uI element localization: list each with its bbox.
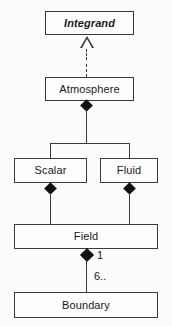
- class-box-fluid[interactable]: Fluid: [100, 158, 158, 183]
- realization-dash-segment-1: [86, 49, 87, 60]
- class-name-fluid: Fluid: [117, 165, 141, 176]
- class-box-integrand[interactable]: Integrand: [45, 11, 134, 35]
- composition-diamond-field: [80, 248, 94, 262]
- multiplicity-label-boundary-end: 6..: [94, 271, 106, 282]
- class-box-boundary[interactable]: Boundary: [14, 292, 158, 318]
- multiplicity-label-field-end: 1: [97, 250, 103, 261]
- realization-dash-segment-2: [86, 64, 87, 77]
- class-name-integrand: Integrand: [64, 18, 115, 29]
- composition-edge-scalar-field: [50, 193, 51, 224]
- class-name-field: Field: [74, 231, 98, 242]
- class-name-scalar: Scalar: [35, 165, 67, 176]
- class-diagram-canvas: Integrand Atmosphere Scalar Fluid Field …: [0, 0, 172, 326]
- composition-edge-atmosphere-stem: [86, 110, 87, 143]
- class-box-atmosphere[interactable]: Atmosphere: [45, 77, 134, 101]
- composition-edge-field-boundary: [86, 260, 87, 292]
- composition-edge-atmosphere-fluid: [129, 143, 130, 158]
- composition-edge-atmosphere-scalar: [50, 143, 51, 158]
- class-name-atmosphere: Atmosphere: [59, 84, 119, 95]
- branch-bar-atmosphere: [50, 143, 129, 144]
- class-box-field[interactable]: Field: [14, 224, 158, 249]
- composition-edge-fluid-field: [129, 193, 130, 224]
- class-box-scalar[interactable]: Scalar: [14, 158, 87, 183]
- class-name-boundary: Boundary: [62, 300, 110, 311]
